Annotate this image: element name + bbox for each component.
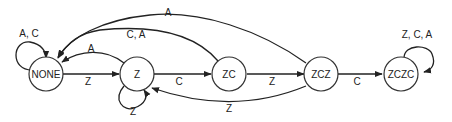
label-zc-to-zcz: Z xyxy=(269,76,275,87)
label-none-self: A, C xyxy=(19,28,38,39)
label-z-self: Z xyxy=(130,106,136,117)
svg-text:ZCZC: ZCZC xyxy=(388,69,415,80)
svg-text:ZC: ZC xyxy=(222,69,235,80)
svg-text:ZCZ: ZCZ xyxy=(311,69,330,80)
edge-zcz-to-none xyxy=(58,14,306,63)
label-z-to-zc: C xyxy=(175,76,182,87)
state-z: Z xyxy=(120,57,154,91)
svg-text:Z: Z xyxy=(134,69,140,80)
label-zcz-to-none: A xyxy=(165,7,172,18)
label-zcz-to-z: Z xyxy=(226,103,232,114)
state-zczc: ZCZC xyxy=(384,57,418,91)
label-zcz-to-zczc: C xyxy=(353,76,360,87)
svg-text:NONE: NONE xyxy=(32,69,61,80)
label-zczc-self: Z, C, A xyxy=(402,29,433,40)
state-zcz: ZCZ xyxy=(304,57,338,91)
state-zc: ZC xyxy=(212,57,246,91)
label-z-to-none: A xyxy=(88,43,95,54)
label-none-to-z: Z xyxy=(85,76,91,87)
state-diagram: A, C Z A Z C C, A Z A Z C Z, C, A NONE xyxy=(0,0,452,122)
state-none: NONE xyxy=(29,57,63,91)
label-zc-to-none: C, A xyxy=(127,29,146,40)
